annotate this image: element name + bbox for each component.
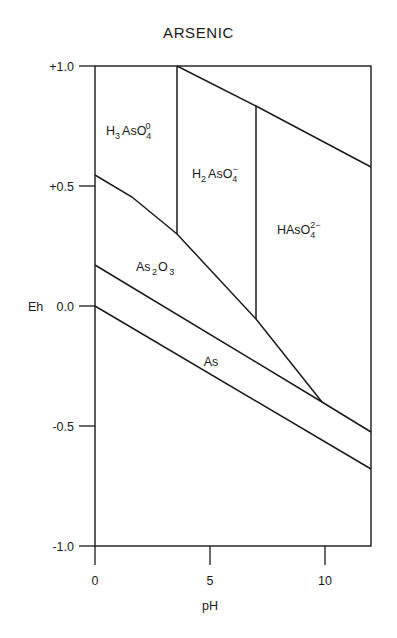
y-tick-label-3: 0.0 xyxy=(57,300,74,314)
haso4-group-haso: HAsO xyxy=(277,223,311,237)
x-tick-label-3: 10 xyxy=(318,574,332,588)
as2o3-element-o: O xyxy=(158,260,168,274)
x-axis-ticks xyxy=(95,546,325,565)
h2aso4-subscript-4: 4 xyxy=(232,174,237,184)
haso4-subscript-4: 4 xyxy=(310,230,315,240)
h3aso4-element-h: H xyxy=(106,124,115,138)
x-axis-label: pH xyxy=(202,599,218,613)
svg-text:HAsO42−: HAsO42− xyxy=(277,220,321,240)
species-label-haso4: HAsO42− xyxy=(277,220,321,240)
h2aso4-subscript-2: 2 xyxy=(201,174,206,184)
as2o3-subscript-3: 3 xyxy=(169,267,174,277)
h3aso4-subscript-4: 4 xyxy=(146,131,151,141)
species-label-as2o3: As2O3 xyxy=(136,260,174,277)
eh-ph-diagram-figure: ARSENIC +1.0 +0.5 0.0 -0.5 -1.0 Eh xyxy=(0,0,397,638)
as2o3-element-as: As xyxy=(136,260,151,274)
boundary-upper-redox xyxy=(177,66,371,167)
y-axis-label: Eh xyxy=(28,300,43,314)
y-tick-label-4: -0.5 xyxy=(52,420,74,434)
y-axis-tick-labels: +1.0 +0.5 0.0 -0.5 -1.0 xyxy=(49,60,74,554)
species-label-h2aso4: H2AsO4− xyxy=(192,164,238,184)
h2aso4-superscript-charge: − xyxy=(232,164,237,174)
x-tick-label-1: 0 xyxy=(92,574,99,588)
h3aso4-group-aso: AsO xyxy=(122,124,147,138)
boundary-as-lower xyxy=(95,306,371,469)
svg-text:H3AsO40: H3AsO40 xyxy=(106,121,151,141)
species-label-h3aso4: H3AsO40 xyxy=(106,121,151,141)
x-axis-tick-labels: 0 5 10 xyxy=(92,574,332,588)
species-label-as: As xyxy=(204,355,219,369)
h3aso4-subscript-3: 3 xyxy=(115,131,120,141)
y-tick-label-2: +0.5 xyxy=(49,180,74,194)
x-tick-label-2: 5 xyxy=(207,574,214,588)
h3aso4-superscript-charge: 0 xyxy=(145,121,150,131)
h2aso4-group-aso: AsO xyxy=(208,167,233,181)
as2o3-subscript-2: 2 xyxy=(152,267,157,277)
svg-text:As2O3: As2O3 xyxy=(136,260,174,277)
h2aso4-element-h: H xyxy=(192,167,201,181)
y-axis-ticks xyxy=(79,66,95,546)
as-element: As xyxy=(204,355,219,369)
y-tick-label-5: -1.0 xyxy=(52,540,74,554)
plot-frame xyxy=(95,66,371,546)
y-tick-label-1: +1.0 xyxy=(49,60,74,74)
boundary-as2o3-as xyxy=(95,265,371,432)
haso4-superscript-charge: 2− xyxy=(310,220,320,230)
plot-canvas: +1.0 +0.5 0.0 -0.5 -1.0 Eh 0 5 10 pH xyxy=(0,0,397,638)
svg-text:H2AsO4−: H2AsO4− xyxy=(192,164,238,184)
